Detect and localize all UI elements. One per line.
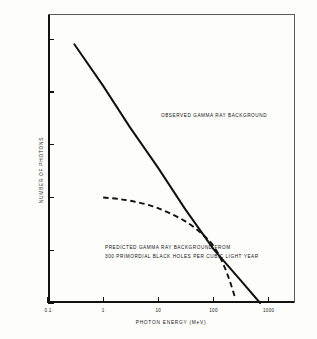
x-tick-label-100: 100 <box>209 308 217 313</box>
x-tick-label-0.1: 0.1 <box>44 308 51 313</box>
predicted-curve-label-line2: 300 PRIMORDIAL BLACK HOLES PER CUBIC LIG… <box>105 252 259 261</box>
x-tick-label-1000: 1000 <box>263 308 274 313</box>
x-tick-label-1: 1 <box>102 308 105 313</box>
plot-area: OBSERVED GAMMA RAY BACKGROUND PREDICTED … <box>48 14 295 303</box>
predicted-curve-label: PREDICTED GAMMA RAY BACKGROUND FROM 300 … <box>105 243 259 261</box>
x-axis-title: PHOTON ENERGY (MeV) <box>136 320 207 325</box>
observed-curve-label: OBSERVED GAMMA RAY BACKGROUND <box>161 113 267 118</box>
y-axis-title: NUMBER OF PHOTONS <box>39 136 44 203</box>
predicted-curve-label-line1: PREDICTED GAMMA RAY BACKGROUND FROM <box>105 243 259 252</box>
series-observed-gamma-ray-background <box>74 44 260 303</box>
x-tick-label-10: 10 <box>156 308 162 313</box>
gamma-ray-background-figure: NUMBER OF PHOTONS PHOTON ENERGY (MeV) OB… <box>0 0 317 339</box>
